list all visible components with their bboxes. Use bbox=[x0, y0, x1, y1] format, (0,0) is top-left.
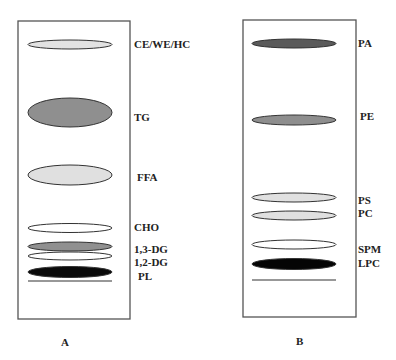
spot-label: TG bbox=[134, 111, 150, 123]
spot-lpc bbox=[252, 259, 336, 270]
plate-border bbox=[243, 20, 356, 317]
spot-label: SPM bbox=[358, 243, 382, 255]
panel-label: A bbox=[61, 336, 69, 348]
spot-cho bbox=[28, 224, 112, 233]
spot-tg bbox=[28, 98, 112, 127]
tlc-plate-b: PAPEPSPCSPMLPCB bbox=[243, 20, 382, 347]
spot-label: PS bbox=[358, 194, 371, 206]
spot-pl bbox=[28, 267, 112, 278]
spot-1-3-dg bbox=[28, 242, 112, 251]
spot-pc bbox=[252, 211, 336, 220]
spot-label: FFA bbox=[137, 171, 158, 183]
spot-label: LPC bbox=[358, 257, 380, 269]
spot-spm bbox=[252, 240, 336, 249]
spot-label: PA bbox=[358, 37, 372, 49]
spot-1-2-dg bbox=[28, 252, 112, 260]
spot-pe bbox=[252, 115, 336, 125]
spot-label: PE bbox=[360, 110, 374, 122]
spot-label: CHO bbox=[134, 221, 160, 233]
spot-label: PC bbox=[358, 207, 373, 219]
spot-ce-we-hc bbox=[28, 40, 112, 49]
spot-label: 1,3-DG bbox=[134, 243, 168, 255]
spot-ffa bbox=[28, 165, 112, 185]
spot-pa bbox=[252, 39, 336, 48]
spot-ps bbox=[252, 193, 336, 202]
panel-label: B bbox=[296, 335, 304, 347]
tlc-figure: CE/WE/HCTGFFACHO1,3-DG1,2-DGPLA PAPEPSPC… bbox=[0, 0, 396, 360]
tlc-plate-a: CE/WE/HCTGFFACHO1,3-DG1,2-DGPLA bbox=[18, 21, 190, 348]
spot-label: CE/WE/HC bbox=[134, 38, 190, 50]
spot-label: 1,2-DG bbox=[134, 256, 168, 268]
spot-label: PL bbox=[138, 270, 152, 282]
